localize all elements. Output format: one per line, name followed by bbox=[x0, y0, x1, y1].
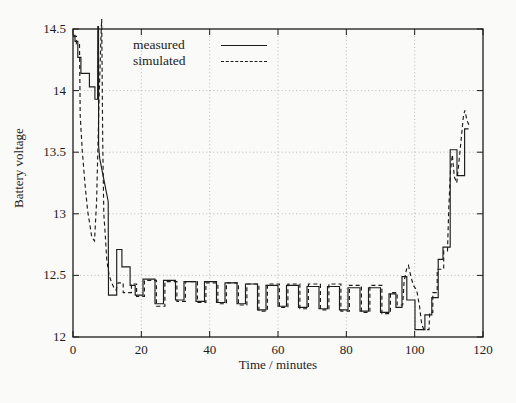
legend-line-sample-measured bbox=[221, 45, 267, 46]
legend-line-sample-simulated bbox=[221, 61, 267, 62]
legend-item-measured: measured bbox=[133, 37, 267, 53]
y-axis-title: Battery voltage bbox=[11, 128, 27, 208]
y-tick-label: 13.5 bbox=[43, 144, 66, 159]
x-tick-label: 40 bbox=[203, 342, 216, 357]
x-tick-label: 120 bbox=[473, 342, 493, 357]
x-tick-label: 80 bbox=[340, 342, 353, 357]
y-tick-label: 12 bbox=[53, 329, 66, 344]
chart-legend: measured simulated bbox=[133, 37, 267, 69]
y-tick-label: 12.5 bbox=[43, 267, 66, 282]
x-axis-title: Time / minutes bbox=[73, 357, 483, 373]
legend-label-measured: measured bbox=[133, 37, 199, 53]
chart-figure: 0204060801001201212.51313.51414.5 measur… bbox=[0, 0, 516, 403]
y-tick-label: 14.5 bbox=[43, 21, 66, 36]
y-tick-label: 13 bbox=[53, 206, 66, 221]
x-tick-label: 100 bbox=[405, 342, 425, 357]
x-tick-label: 20 bbox=[135, 342, 148, 357]
x-tick-label: 0 bbox=[70, 342, 77, 357]
legend-item-simulated: simulated bbox=[133, 53, 267, 69]
x-tick-label: 60 bbox=[272, 342, 285, 357]
legend-label-simulated: simulated bbox=[133, 53, 199, 69]
y-tick-label: 14 bbox=[53, 83, 67, 98]
